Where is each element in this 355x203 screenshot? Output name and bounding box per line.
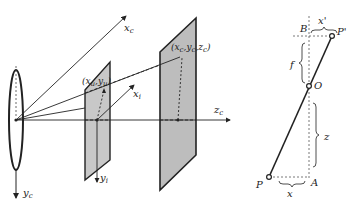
yc-label: yc [22, 187, 33, 200]
label-B: B [299, 23, 307, 34]
label-A: A [310, 177, 318, 188]
similar-triangles-diagram [267, 16, 337, 187]
label-f: f [289, 59, 296, 70]
label-z: z [323, 131, 330, 142]
xc-label: xc [124, 22, 134, 35]
yi-label: yi [99, 172, 108, 185]
label-P: P [255, 179, 263, 190]
label-x-prime: x' [318, 15, 326, 26]
zc-label: zc [213, 104, 223, 117]
label-O: O [314, 80, 322, 91]
label-x: x [287, 188, 293, 199]
xi-label: xi [133, 88, 141, 101]
label-P-prime: P' [336, 26, 346, 37]
camera-projection-diagram: xc yc zc xi yi (xu,yu) (xc,yc,zc) B x' P… [0, 0, 355, 203]
